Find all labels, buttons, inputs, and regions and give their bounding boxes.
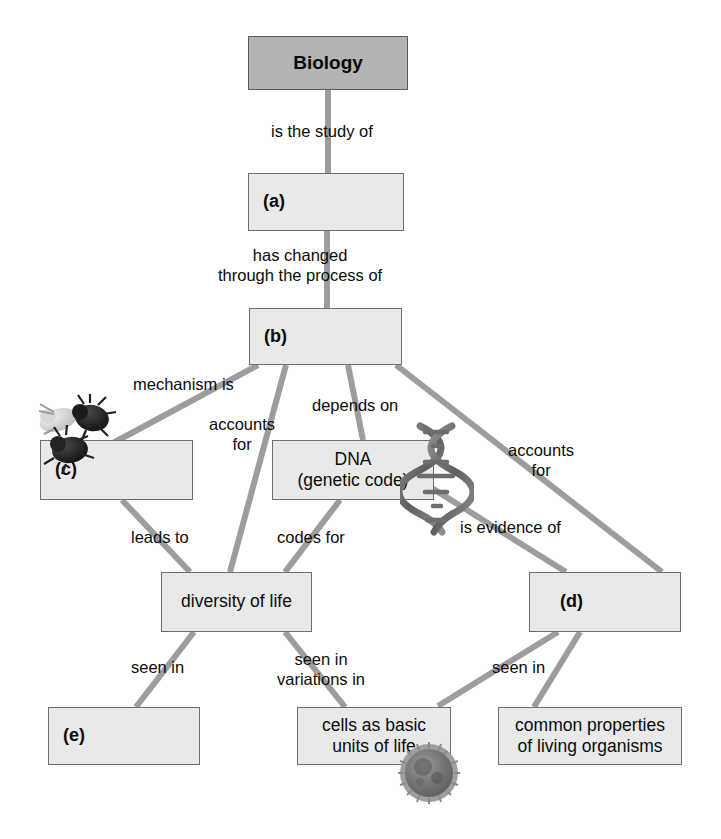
- node-label-e: (e): [63, 725, 85, 747]
- edge-label-diversity-e: seen in: [131, 658, 184, 678]
- node-label-a: (a): [263, 191, 285, 213]
- edge-label-dna-d: is evidence of: [460, 518, 561, 538]
- node-c[interactable]: (c): [40, 440, 193, 500]
- edge-label-bio-a: is the study of: [271, 122, 373, 142]
- node-cells[interactable]: cells as basic units of life: [297, 707, 451, 765]
- node-d[interactable]: (d): [529, 572, 681, 632]
- node-label-dna: DNA (genetic code): [298, 449, 409, 492]
- concept-map-canvas: Biology(a)(b)(c)DNA (genetic code)(d)div…: [0, 0, 721, 839]
- edge-label-diversity-cells: seen in variations in: [277, 650, 365, 690]
- edge-label-b-diversity: accounts for: [209, 415, 275, 455]
- node-label-cells: cells as basic units of life: [322, 715, 426, 758]
- node-diversity[interactable]: diversity of life: [161, 572, 312, 632]
- edge-label-c-diversity: leads to: [131, 528, 189, 548]
- edge-label-b-c: mechanism is: [133, 375, 234, 395]
- node-label-c: (c): [55, 459, 77, 481]
- node-e[interactable]: (e): [48, 707, 200, 765]
- edge-label-b-d: accounts for: [508, 441, 574, 481]
- edge-label-dna-diversity: codes for: [277, 528, 345, 548]
- node-label-d: (d): [560, 591, 583, 613]
- edge-label-b-dna: depends on: [312, 396, 398, 416]
- node-label-b: (b): [264, 326, 287, 348]
- node-biology[interactable]: Biology: [248, 36, 408, 90]
- node-label-biology: Biology: [293, 51, 363, 74]
- node-label-common: common properties of living organisms: [515, 715, 665, 758]
- edge-label-a-b: has changed through the process of: [218, 246, 382, 286]
- node-label-diversity: diversity of life: [181, 591, 292, 612]
- edge-label-d-common: seen in: [492, 658, 545, 678]
- node-a[interactable]: (a): [248, 173, 404, 231]
- node-common[interactable]: common properties of living organisms: [498, 707, 682, 765]
- node-b[interactable]: (b): [249, 308, 402, 365]
- node-dna[interactable]: DNA (genetic code): [272, 440, 434, 500]
